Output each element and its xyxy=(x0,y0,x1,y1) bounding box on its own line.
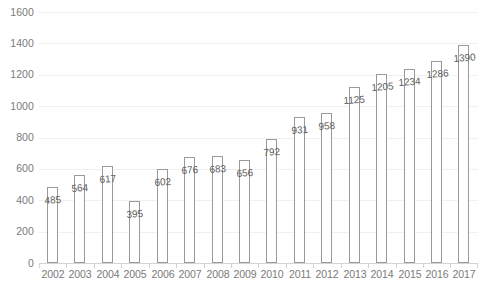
x-axis-category-label: 2013 xyxy=(341,269,369,280)
bar-value-label: 1205 xyxy=(371,81,394,93)
bar xyxy=(321,113,332,263)
x-axis-tick xyxy=(368,263,369,268)
x-axis-category-label: 2005 xyxy=(121,269,149,280)
y-axis-tick-label: 800 xyxy=(2,132,34,143)
plot-area: 485 564 617 395 602 676 683 656 792 931 … xyxy=(39,12,478,263)
y-axis-tick-label: 1400 xyxy=(2,38,34,49)
bar-value-label: 485 xyxy=(44,195,61,206)
y-axis-tick-label: 200 xyxy=(2,226,34,237)
x-axis-category-label: 2002 xyxy=(39,269,67,280)
x-axis-category-label: 2008 xyxy=(204,269,232,280)
gridline-1600 xyxy=(39,12,478,13)
bar-value-label: 931 xyxy=(291,125,308,136)
x-axis-tick xyxy=(396,263,397,268)
x-axis-category-label: 2004 xyxy=(94,269,122,280)
bar-value-label: 683 xyxy=(209,164,226,175)
bar-value-label: 395 xyxy=(126,209,143,220)
x-axis-category-label: 2011 xyxy=(286,269,314,280)
y-axis-tick-label: 0 xyxy=(2,258,34,269)
x-axis-tick xyxy=(450,263,451,268)
x-axis-category-label: 2006 xyxy=(149,269,177,280)
x-axis-category-label: 2010 xyxy=(258,269,286,280)
bar xyxy=(294,117,305,263)
bar-value-label: 1234 xyxy=(398,76,421,88)
x-axis-tick xyxy=(313,263,314,268)
x-axis-category-label: 2003 xyxy=(66,269,94,280)
y-axis-tick-label: 400 xyxy=(2,195,34,206)
bar xyxy=(376,74,387,263)
y-axis-tick-label: 600 xyxy=(2,163,34,174)
bar xyxy=(431,61,442,263)
bar xyxy=(349,87,360,263)
gridline-1400 xyxy=(39,43,478,44)
y-axis-tick-label: 1000 xyxy=(2,101,34,112)
x-axis-tick xyxy=(121,263,122,268)
x-axis-tick xyxy=(477,263,478,268)
x-axis-category-label: 2009 xyxy=(231,269,259,280)
x-axis-tick xyxy=(149,263,150,268)
bar-value-label: 792 xyxy=(263,147,280,158)
bar xyxy=(404,69,415,263)
x-axis-tick xyxy=(176,263,177,268)
x-axis-category-label: 2016 xyxy=(423,269,451,280)
y-axis-tick-label: 1200 xyxy=(2,69,34,80)
x-axis-category-label: 2014 xyxy=(368,269,396,280)
x-axis-tick xyxy=(286,263,287,268)
bar-value-label: 617 xyxy=(99,174,116,185)
bar xyxy=(458,45,469,263)
bar-value-label: 656 xyxy=(236,168,253,179)
bar-value-label: 602 xyxy=(154,177,171,188)
x-axis-category-label: 2017 xyxy=(450,269,478,280)
x-axis-tick xyxy=(39,263,40,268)
bar-value-label: 1286 xyxy=(426,68,449,80)
x-axis-tick xyxy=(423,263,424,268)
x-axis-category-label: 2007 xyxy=(176,269,204,280)
bar-value-label: 1125 xyxy=(343,95,365,106)
x-axis-tick xyxy=(341,263,342,268)
y-axis-tick-label: 1600 xyxy=(2,7,34,18)
x-axis-tick xyxy=(66,263,67,268)
bar-value-label: 1390 xyxy=(453,52,476,64)
x-axis-tick xyxy=(258,263,259,268)
x-axis-tick xyxy=(231,263,232,268)
x-axis-tick xyxy=(94,263,95,268)
x-axis-category-label: 2012 xyxy=(313,269,341,280)
x-axis-category-label: 2015 xyxy=(396,269,424,280)
bar-value-label: 676 xyxy=(181,165,198,176)
bar-value-label: 958 xyxy=(318,121,335,132)
x-axis-tick xyxy=(204,263,205,268)
bar-chart: 1600 1400 1200 1000 800 600 400 200 0 xyxy=(0,0,483,286)
bar-value-label: 564 xyxy=(71,183,88,194)
